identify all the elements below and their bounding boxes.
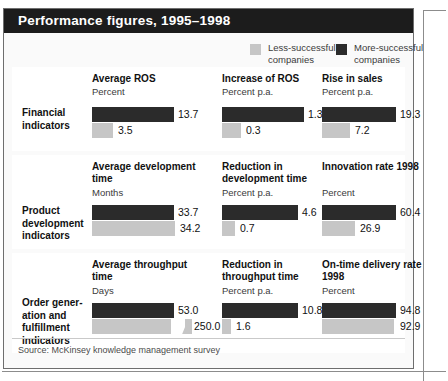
bar-more-successful [322, 107, 396, 122]
col-title-average-ros: Average ROS [92, 73, 200, 85]
less-successful-swatch [250, 44, 261, 55]
bar-group-on-time-delivery-rate-1998: 94.8 92.9 [322, 303, 408, 334]
bar-less-successful [222, 319, 231, 334]
more-successful-swatch [336, 44, 347, 55]
bar-more-successful [92, 107, 174, 122]
bar-group-average-ros: 13.7 3.5 [92, 107, 214, 138]
col-title-rise-in-sales: Rise in sales [322, 73, 430, 85]
value-less-successful: 34.2 [180, 222, 200, 234]
bar-more-successful [92, 205, 174, 220]
col-title-on-time-delivery-rate-1998: On-time delivery rate 1998 [322, 259, 430, 283]
bar-less-successful [222, 221, 235, 236]
bottom-margin-rule [2, 371, 446, 372]
col-unit-reduction-in-development-time: Percent p.a. [222, 187, 332, 199]
margin-tick [423, 10, 446, 11]
value-less-successful: 92.9 [400, 320, 420, 332]
bar-group-rise-in-sales: 19.3 7.2 [322, 107, 408, 138]
bar-more-successful [222, 303, 298, 318]
col-title-reduction-in-throughput-time: Reduction in throughput time [222, 259, 330, 283]
value-more-successful: 53.0 [178, 304, 198, 316]
value-more-successful: 4.6 [302, 206, 317, 218]
row-band-financial: Financialindicators Average ROS Percent … [12, 67, 405, 151]
page-title: Performance figures, 1995–1998 [18, 13, 230, 28]
bar-more-successful [322, 303, 396, 318]
col-unit-average-ros: Percent [92, 86, 202, 98]
exhibit-frame: Performance figures, 1995–1998 Less-succ… [3, 8, 414, 369]
col-unit-average-development-time: Months [92, 187, 202, 199]
bar-less-successful [322, 123, 350, 138]
row-band-product-development: Productdevelopmentindicators Average dev… [12, 155, 405, 249]
bar-group-average-throughput-time: 53.0 250.0 [92, 303, 214, 334]
col-unit-increase-of-ros: Percent p.a. [222, 86, 332, 98]
value-less-successful: 1.6 [236, 320, 251, 332]
value-less-successful: 26.9 [360, 222, 380, 234]
legend-label-less-successful: Less-successfulcompanies [268, 42, 336, 65]
value-less-successful: 0.7 [240, 222, 255, 234]
value-less-successful: 0.3 [246, 124, 261, 136]
value-more-successful: 94.8 [400, 304, 420, 316]
bar-group-increase-of-ros: 1.3 0.3 [222, 107, 332, 138]
bar-more-successful [222, 205, 298, 220]
value-more-successful: 60.4 [400, 206, 420, 218]
figure-page: FIGURE 13 Performance figures, 1995–1998… [0, 0, 448, 381]
bar-group-innovation-rate-1998: 60.4 26.9 [322, 205, 408, 236]
bar-less-successful [322, 221, 355, 236]
col-title-average-development-time: Average development time [92, 161, 200, 185]
row-label-order-generation: Order gener-ation andfulfillmentindicato… [22, 297, 94, 347]
value-more-successful: 10.8 [302, 304, 322, 316]
col-unit-rise-in-sales: Percent p.a. [322, 86, 432, 98]
col-title-innovation-rate-1998: Innovation rate 1998 [322, 161, 430, 173]
col-title-reduction-in-development-time: Reduction in development time [222, 161, 330, 185]
col-unit-reduction-in-throughput-time: Percent p.a. [222, 285, 332, 297]
col-title-average-throughput-time: Average throughput time [92, 259, 200, 283]
bar-less-successful [92, 123, 113, 138]
source-note: Source: McKinsey knowledge management su… [18, 345, 220, 355]
value-less-successful: 250.0 [194, 320, 220, 332]
value-more-successful: 13.7 [178, 108, 198, 120]
bar-group-reduction-in-throughput-time: 10.8 1.6 [222, 303, 332, 334]
title-bar: Performance figures, 1995–1998 [4, 9, 413, 33]
row-label-financial: Financialindicators [22, 107, 94, 132]
bar-group-average-development-time: 33.7 34.2 [92, 205, 214, 236]
bar-less-successful [92, 221, 175, 236]
row-label-product-development: Productdevelopmentindicators [22, 205, 94, 243]
value-less-successful: 3.5 [118, 124, 133, 136]
value-less-successful: 7.2 [355, 124, 370, 136]
value-more-successful: 1.3 [308, 108, 323, 120]
legend-label-more-successful: More-successfulcompanies [354, 42, 423, 65]
bar-more-successful [222, 107, 304, 122]
col-unit-average-throughput-time: Days [92, 285, 202, 297]
col-unit-on-time-delivery-rate-1998: Percent [322, 285, 432, 297]
bar-group-reduction-in-development-time: 4.6 0.7 [222, 205, 332, 236]
col-title-increase-of-ros: Increase of ROS [222, 73, 330, 85]
value-more-successful: 33.7 [178, 206, 198, 218]
bar-less-successful [222, 123, 241, 138]
source-divider [12, 338, 405, 339]
bar-less-successful [322, 319, 394, 334]
legend: Less-successfulcompanies More-successful… [4, 43, 413, 67]
axis-break-marker [171, 319, 185, 334]
col-unit-innovation-rate-1998: Percent [322, 187, 432, 199]
bar-more-successful [322, 205, 396, 220]
bar-more-successful [92, 303, 174, 318]
value-more-successful: 19.3 [400, 108, 420, 120]
